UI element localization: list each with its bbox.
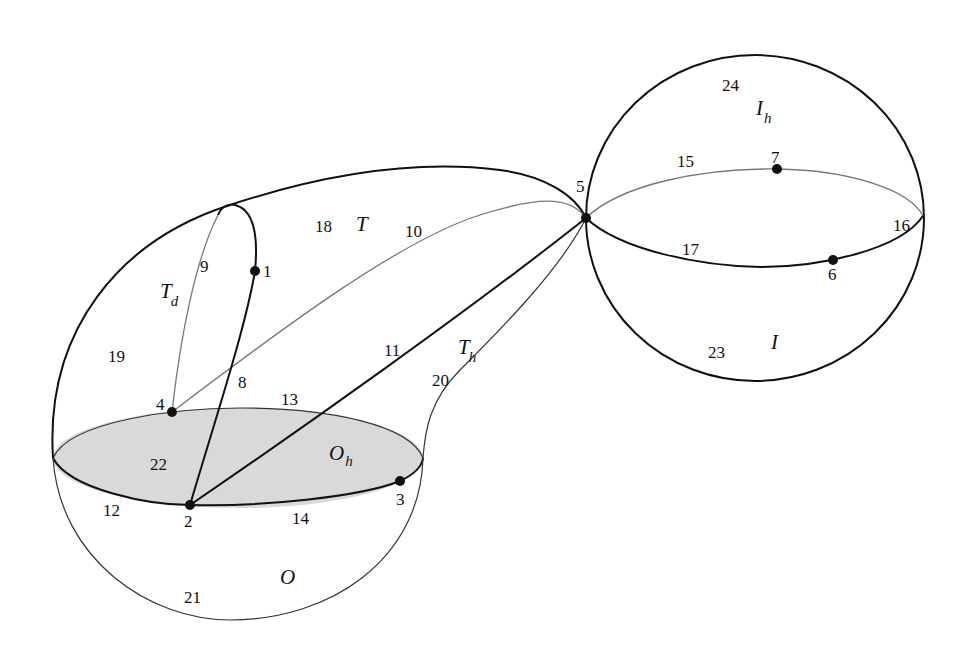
region-label-T: T	[356, 212, 369, 236]
sphere-outline	[586, 55, 924, 381]
vertex-6[interactable]	[828, 255, 838, 265]
vertex-label-1: 1	[263, 262, 272, 281]
cell-complex-figure: 1 2 3 4 5 6 7 8 9 10 11 12 13 14 15 16 1…	[0, 0, 967, 649]
vertex-label-5: 5	[576, 177, 585, 196]
edge-17	[586, 216, 923, 267]
edge-label-20: 20	[432, 371, 449, 390]
edge-label-16: 16	[893, 216, 910, 235]
edge-label-8: 8	[238, 373, 247, 392]
edge-label-12: 12	[103, 501, 120, 520]
region-label-Td: Td	[160, 279, 179, 309]
edge-label-13: 13	[281, 390, 298, 409]
edge-label-10: 10	[405, 222, 422, 241]
edge-15	[586, 169, 923, 218]
edge-20	[423, 218, 586, 458]
region-label-Th: Th	[458, 335, 476, 365]
face-label-21: 21	[184, 588, 201, 607]
face-label-18: 18	[315, 217, 332, 236]
edge-label-9: 9	[200, 257, 209, 276]
face-label-23: 23	[708, 343, 725, 362]
edge-label-17: 17	[682, 240, 700, 259]
vertex-label-2: 2	[184, 512, 193, 531]
face-label-22: 22	[150, 455, 167, 474]
vertex-label-6: 6	[828, 265, 837, 284]
edge-label-14: 14	[292, 509, 310, 528]
diagram-canvas: 1 2 3 4 5 6 7 8 9 10 11 12 13 14 15 16 1…	[0, 0, 967, 649]
vertex-3[interactable]	[395, 476, 405, 486]
region-label-O: O	[280, 565, 295, 589]
region-label-Ih: Ih	[755, 96, 772, 126]
vertex-4[interactable]	[167, 407, 177, 417]
vertex-1[interactable]	[250, 266, 260, 276]
vertex-label-7: 7	[771, 148, 780, 167]
vertex-label-3: 3	[396, 490, 405, 509]
region-label-I: I	[770, 330, 779, 354]
edge-label-15: 15	[677, 152, 694, 171]
face-label-19: 19	[108, 347, 125, 366]
vertex-2[interactable]	[185, 500, 195, 510]
edge-label-11: 11	[384, 341, 400, 360]
face-label-24: 24	[722, 76, 740, 95]
vertex-label-4: 4	[156, 395, 165, 414]
edge-10	[172, 201, 586, 412]
vertex-5[interactable]	[581, 213, 591, 223]
